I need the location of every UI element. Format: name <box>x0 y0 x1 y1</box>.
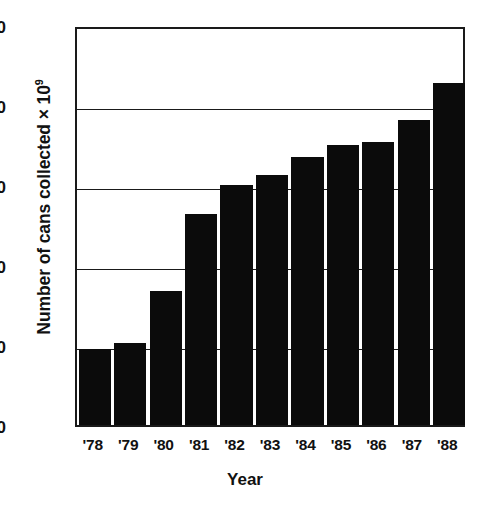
bar-83 <box>256 175 288 425</box>
y-axis-title-exponent: 9 <box>33 79 45 85</box>
bar-chart-figure: Number of cans collected × 109 010203040… <box>0 0 490 513</box>
x-tick-label-88: '88 <box>427 436 467 454</box>
x-tick-label-86: '86 <box>356 436 396 454</box>
bar-80 <box>150 291 182 425</box>
x-tick-label-79: '79 <box>108 436 148 454</box>
x-tick-label-87: '87 <box>392 436 432 454</box>
bar-81 <box>185 214 217 425</box>
x-tick-label-80: '80 <box>144 436 184 454</box>
gridline-20 <box>77 269 463 270</box>
y-axis-title: Number of cans collected × 109 <box>33 7 55 407</box>
y-tick-label-50: 50 <box>0 19 6 36</box>
bar-86 <box>362 142 394 425</box>
x-tick-label-82: '82 <box>215 436 255 454</box>
y-tick-label-0: 0 <box>0 419 6 436</box>
y-tick-label-30: 30 <box>0 179 6 196</box>
gridline-40 <box>77 109 463 110</box>
bar-87 <box>398 120 430 425</box>
x-tick-label-84: '84 <box>285 436 325 454</box>
bar-78 <box>79 349 111 425</box>
x-tick-label-81: '81 <box>179 436 219 454</box>
bar-84 <box>291 157 323 425</box>
bar-79 <box>114 343 146 425</box>
x-tick-label-83: '83 <box>250 436 290 454</box>
y-tick-label-10: 10 <box>0 339 6 356</box>
x-tick-label-78: '78 <box>73 436 113 454</box>
y-tick-label-20: 20 <box>0 259 6 276</box>
bar-82 <box>220 185 252 425</box>
x-tick-label-85: '85 <box>321 436 361 454</box>
y-tick-label-40: 40 <box>0 99 6 116</box>
bar-88 <box>433 83 465 425</box>
gridline-30 <box>77 189 463 190</box>
bar-group <box>77 29 463 425</box>
plot-area <box>75 27 465 427</box>
y-axis-title-text: Number of cans collected × 10 <box>34 85 54 334</box>
gridline-10 <box>77 349 463 350</box>
x-axis-title: Year <box>0 470 490 490</box>
bar-85 <box>327 145 359 425</box>
